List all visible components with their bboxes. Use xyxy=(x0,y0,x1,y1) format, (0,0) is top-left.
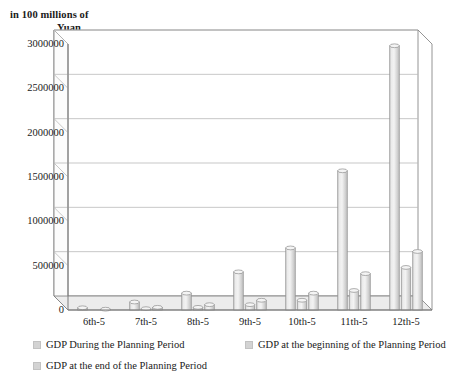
x-axis-tick-label: 6th-5 xyxy=(64,316,124,328)
legend-item-beginning: GDP at the beginning of the Planning Per… xyxy=(245,339,446,351)
legend-swatch-icon xyxy=(33,362,41,370)
legend-swatch-icon xyxy=(33,341,41,349)
legend-label-beginning: GDP at the beginning of the Planning Per… xyxy=(258,339,446,351)
chart-legend: GDP During the Planning Period GDP at th… xyxy=(0,336,460,386)
x-axis-tick-label: 10th-5 xyxy=(272,316,332,328)
gdp-bar-chart: in 100 millions of Yuan xyxy=(0,0,460,387)
plot-area: 0500000100000015000002000000250000030000… xyxy=(0,0,460,340)
x-axis-tick-labels: 6th-57th-58th-59th-510th-511th-512th-5 xyxy=(0,0,460,340)
x-axis-tick-label: 11th-5 xyxy=(324,316,384,328)
x-axis-tick-label: 8th-5 xyxy=(168,316,228,328)
x-axis-tick-label: 7th-5 xyxy=(116,316,176,328)
legend-item-end: GDP at the end of the Planning Period xyxy=(33,360,207,372)
legend-label-during: GDP During the Planning Period xyxy=(46,339,184,351)
legend-item-during: GDP During the Planning Period xyxy=(33,339,184,351)
x-axis-tick-label: 9th-5 xyxy=(220,316,280,328)
legend-swatch-icon xyxy=(245,341,253,349)
legend-label-end: GDP at the end of the Planning Period xyxy=(46,360,207,372)
x-axis-tick-label: 12th-5 xyxy=(376,316,436,328)
